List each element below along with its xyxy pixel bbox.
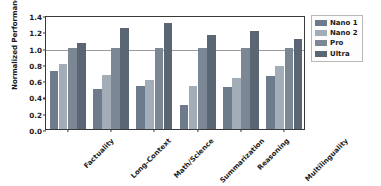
bar <box>136 86 145 129</box>
legend-swatch <box>315 20 327 26</box>
bar-chart-figure: Normalized Performance vs Pro 0.00.20.40… <box>0 0 381 186</box>
y-tick-mark <box>43 65 46 66</box>
legend-label: Pro <box>330 39 343 47</box>
y-tick-label: 0.8 <box>29 61 42 70</box>
x-tick-label: Summarization <box>218 137 266 185</box>
y-tick-mark <box>43 49 46 50</box>
bar-group <box>219 17 262 129</box>
y-tick-mark <box>43 33 46 34</box>
legend-item: Pro <box>315 39 358 47</box>
y-tick-mark <box>43 16 46 17</box>
legend-swatch <box>315 30 327 36</box>
legend-label: Nano 1 <box>330 19 358 27</box>
legend-label: Ultra <box>330 50 350 58</box>
bar-group <box>89 17 132 129</box>
legend-item: Ultra <box>315 50 358 58</box>
bar <box>285 48 294 129</box>
bar-group <box>133 17 176 129</box>
x-tick-label: Factuality <box>82 137 115 170</box>
bar <box>223 87 232 129</box>
y-tick-mark <box>43 130 46 131</box>
y-tick-label: 0.6 <box>29 78 42 87</box>
bar <box>275 66 284 129</box>
y-tick-mark <box>43 114 46 115</box>
bar-group <box>46 17 89 129</box>
x-tick-mark <box>284 129 285 132</box>
bar <box>189 86 198 129</box>
legend-swatch <box>315 51 327 57</box>
bar <box>77 43 86 129</box>
bar <box>266 76 275 129</box>
chart-legend: Nano 1Nano 2ProUltra <box>311 15 363 62</box>
x-tick-label: Multilinguality <box>304 137 350 183</box>
legend-item: Nano 1 <box>315 19 358 27</box>
bar <box>50 71 59 129</box>
x-tick-label: Math/Science <box>173 137 216 180</box>
bar <box>207 35 216 129</box>
bar <box>241 48 250 129</box>
x-tick-mark <box>67 129 68 132</box>
x-tick-mark <box>154 129 155 132</box>
bar <box>93 89 102 129</box>
bar <box>164 23 173 129</box>
x-tick-mark <box>197 129 198 132</box>
y-tick-label: 0.0 <box>29 127 42 136</box>
bar <box>145 80 154 129</box>
bar <box>155 48 164 129</box>
y-tick-mark <box>43 98 46 99</box>
x-tick-mark <box>110 129 111 132</box>
legend-item: Nano 2 <box>315 29 358 37</box>
bar <box>120 28 129 129</box>
bar <box>102 75 111 129</box>
y-axis-title: Normalized Performance vs Pro <box>10 0 24 90</box>
y-tick-label: 0.2 <box>29 110 42 119</box>
bar <box>294 39 303 129</box>
y-tick-label: 0.4 <box>29 94 42 103</box>
bar <box>250 31 259 129</box>
bar-group <box>263 17 304 129</box>
x-tick-mark <box>240 129 241 132</box>
y-tick-mark <box>43 82 46 83</box>
bar <box>68 48 77 129</box>
plot-inner <box>46 17 304 129</box>
y-tick-label: 1.0 <box>29 45 42 54</box>
bar <box>180 105 189 129</box>
y-tick-label: 1.2 <box>29 29 42 38</box>
legend-swatch <box>315 40 327 46</box>
x-tick-label: Long-Context <box>130 137 173 180</box>
y-tick-label: 1.4 <box>29 13 42 22</box>
bar <box>59 64 68 129</box>
plot-area: 0.00.20.40.60.81.01.21.4 <box>45 16 305 130</box>
bar <box>232 78 241 129</box>
bar <box>198 48 207 129</box>
bar <box>111 48 120 129</box>
legend-label: Nano 2 <box>330 29 358 37</box>
bar-group <box>176 17 219 129</box>
